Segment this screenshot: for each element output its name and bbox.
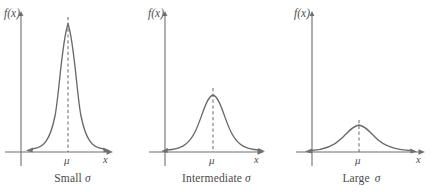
caption-intermediate-sigma: Intermediate σ — [144, 172, 289, 184]
x-axis-label: x — [416, 155, 421, 166]
plot-small-sigma — [0, 0, 145, 192]
panel-small-sigma: f(x) x μ Small σ — [0, 0, 145, 192]
panel-large-sigma: f(x) x μ Large σ — [289, 0, 434, 192]
panel-intermediate-sigma: f(x) x μ Intermediate σ — [144, 0, 289, 192]
mean-label: μ — [64, 155, 70, 166]
y-axis-arrowhead — [310, 11, 315, 16]
caption-sigma-symbol: σ — [375, 172, 381, 184]
right-tail-arrowhead — [410, 149, 417, 154]
caption-word: Intermediate — [182, 172, 242, 184]
caption-word: Small — [54, 172, 82, 184]
x-axis-label: x — [254, 155, 259, 166]
y-axis-label: f(x) — [294, 8, 310, 20]
x-axis-label: x — [103, 155, 108, 166]
density-curve — [311, 125, 411, 151]
caption-sigma-symbol: σ — [85, 172, 91, 184]
caption-small-sigma: Small σ — [0, 172, 145, 184]
caption-word: Large — [342, 172, 369, 184]
plot-intermediate-sigma — [144, 0, 289, 192]
caption-sigma-symbol: σ — [245, 172, 251, 184]
normal-curves-figure: f(x) x μ Small σ f(x) x μ Intermediate σ — [0, 0, 434, 192]
plot-large-sigma — [289, 0, 434, 192]
y-axis-label: f(x) — [4, 8, 20, 20]
left-tail-arrowhead — [305, 149, 312, 154]
caption-large-sigma: Large σ — [289, 172, 434, 184]
mean-label: μ — [209, 155, 215, 166]
mean-label: μ — [355, 155, 361, 166]
y-axis-label: f(x) — [148, 8, 164, 20]
